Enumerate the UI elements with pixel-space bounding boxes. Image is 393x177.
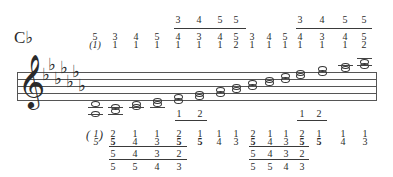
lh-bracket-top-1 (175, 120, 207, 121)
lh-finger-lower: 5 (296, 137, 308, 146)
lh-finger-row3: 2 (173, 149, 185, 158)
rh-finger-lower: 1 (246, 40, 258, 49)
lh-finger-lower: 5 (173, 137, 185, 146)
lh-finger-row4: 3 (296, 162, 308, 171)
ledger-line (108, 114, 123, 115)
lh-finger-lower: 5 (247, 137, 259, 146)
lh-bracket-mid-1 (109, 146, 187, 147)
rh-finger-top: 3 (294, 15, 306, 24)
rh-finger-lower: (1) (89, 40, 101, 49)
rh-finger-lower: 1 (172, 40, 184, 49)
lh-bracket-low-1 (109, 159, 187, 160)
lh-finger-lower: 4 (264, 137, 276, 146)
rh-finger-lower: 1 (109, 40, 121, 49)
lh-finger-lower: 5 (107, 137, 119, 146)
lh-finger-lower: 5 (313, 137, 325, 146)
whole-note-icon (265, 80, 274, 86)
rh-bracket-1 (174, 28, 246, 29)
rh-finger-top: 5 (230, 15, 242, 24)
lh-finger-lower: 4 (129, 137, 141, 146)
rh-finger-lower: 1 (193, 40, 205, 49)
lh-finger-row3: 4 (129, 149, 141, 158)
lh-finger-top: 1 (296, 109, 308, 118)
rh-finger-top: 4 (193, 15, 205, 24)
whole-note-icon (195, 94, 204, 100)
ledger-line (338, 65, 353, 66)
lh-finger-row3: 3 (151, 149, 163, 158)
whole-note-icon (296, 73, 305, 79)
lh-finger-row4: 5 (129, 162, 141, 171)
barline-end (376, 72, 377, 101)
rh-finger-lower: 1 (339, 40, 351, 49)
rh-finger-top: 4 (316, 15, 328, 24)
lh-bracket-top-2 (297, 120, 327, 121)
key-title: C♭ (14, 27, 33, 48)
rh-finger-lower: 1 (316, 40, 328, 49)
lh-finger-lower: 4 (337, 137, 349, 146)
lh-paren-close: ) (99, 128, 103, 143)
lh-finger-lower: 3 (359, 137, 371, 146)
rh-finger-lower: 1 (279, 40, 291, 49)
ledger-line (357, 58, 372, 59)
lh-finger-row4: 4 (151, 162, 163, 171)
treble-clef-icon: 𝄞 (18, 58, 45, 104)
lh-finger-row3: 5 (107, 149, 119, 158)
ledger-line (129, 107, 144, 108)
lh-finger-row4: 5 (264, 162, 276, 171)
ledger-line (88, 107, 103, 108)
rh-finger-lower: 1 (263, 40, 275, 49)
lh-finger-lower: 3 (230, 137, 242, 146)
rh-finger-lower: 1 (294, 40, 306, 49)
rh-finger-lower: 2 (358, 40, 370, 49)
ledger-line (357, 65, 372, 66)
ledger-line (150, 107, 165, 108)
lh-finger-row3: 2 (296, 149, 308, 158)
rh-finger-lower: 2 (230, 40, 242, 49)
lh-finger-lower: 3 (151, 137, 163, 146)
rh-finger-top: 5 (214, 15, 226, 24)
rh-finger-top: 5 (339, 15, 351, 24)
lh-finger-row3: 4 (264, 149, 276, 158)
rh-finger-top: 3 (172, 15, 184, 24)
lh-finger-lower: 4 (213, 137, 225, 146)
lh-bracket-low-2 (249, 159, 309, 160)
rh-finger-lower: 1 (214, 40, 226, 49)
ledger-line (88, 114, 103, 115)
lh-finger-row4: 3 (173, 162, 185, 171)
lh-finger-row4: 5 (107, 162, 119, 171)
flat-icon: ♭ (78, 77, 86, 94)
whole-note-icon (341, 66, 350, 72)
lh-finger-row4: 5 (247, 162, 259, 171)
lh-finger-top: 2 (313, 109, 325, 118)
lh-finger-row3: 5 (247, 149, 259, 158)
rh-finger-lower: 1 (130, 40, 142, 49)
lh-finger-row4: 4 (280, 162, 292, 171)
rh-finger-lower: 1 (151, 40, 163, 49)
whole-note-icon (318, 70, 327, 76)
whole-note-icon (281, 77, 290, 83)
rh-finger-top: 5 (358, 15, 370, 24)
whole-note-icon (248, 84, 257, 90)
lh-finger-lower: 5 (194, 137, 206, 146)
lh-bracket-mid-2 (249, 146, 309, 147)
staff-line (17, 100, 377, 101)
whole-note-icon (232, 87, 241, 93)
ledger-line (108, 107, 123, 108)
whole-note-icon (174, 98, 183, 104)
whole-note-icon (216, 91, 225, 97)
lh-finger-top: 1 (173, 109, 185, 118)
rh-bracket-2 (296, 28, 372, 29)
lh-finger-row3: 3 (280, 149, 292, 158)
lh-finger-lower: 3 (280, 137, 292, 146)
lh-finger-top: 2 (194, 109, 206, 118)
